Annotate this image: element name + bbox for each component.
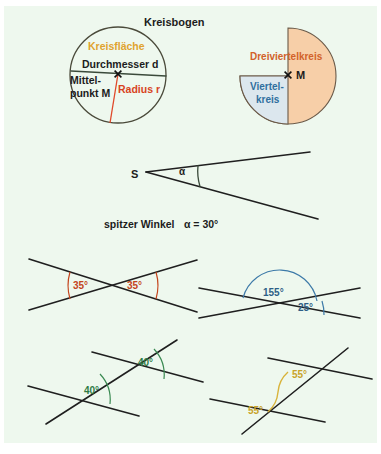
diagram-page: Kreisbogen Kreisfläche Durchmesser d Mit… xyxy=(0,0,381,454)
label-dreiviertelkreis: Dreiviertelkreis xyxy=(250,51,323,62)
label-kreisbogen: Kreisbogen xyxy=(144,16,205,28)
label-viertelkreis-line2: kreis xyxy=(256,94,280,105)
diagram-canvas: Kreisbogen Kreisfläche Durchmesser d Mit… xyxy=(0,0,381,454)
label-angle-35-right: 35° xyxy=(127,280,142,291)
label-angle-40-upper: 40° xyxy=(138,357,153,368)
label-angle-55-upper: 55° xyxy=(292,369,307,380)
label-angle-40-lower: 40° xyxy=(84,385,99,396)
label-mittelpunkt-line1: Mittel- xyxy=(70,74,101,86)
label-radius: Radius r xyxy=(118,83,160,95)
label-viertelkreis-line1: Viertel- xyxy=(250,81,284,92)
geometry-figure: Kreisbogen Kreisfläche Durchmesser d Mit… xyxy=(0,0,381,454)
label-angle-55-lower: 55° xyxy=(248,405,263,416)
label-angle-25: 25° xyxy=(298,302,313,313)
label-vertex-s: S xyxy=(131,168,138,180)
label-angle-35-left: 35° xyxy=(73,280,88,291)
label-durchmesser: Durchmesser d xyxy=(82,58,158,70)
label-sector-center: M xyxy=(296,69,305,81)
label-kreisflaeche: Kreisfläche xyxy=(88,40,145,52)
label-angle-155: 155° xyxy=(263,287,284,298)
label-spitzer-winkel: spitzer Winkel xyxy=(104,218,175,230)
label-alpha-symbol: α xyxy=(179,166,186,177)
label-alpha-value: α = 30° xyxy=(184,218,218,230)
label-mittelpunkt-line2: punkt M xyxy=(70,87,110,99)
